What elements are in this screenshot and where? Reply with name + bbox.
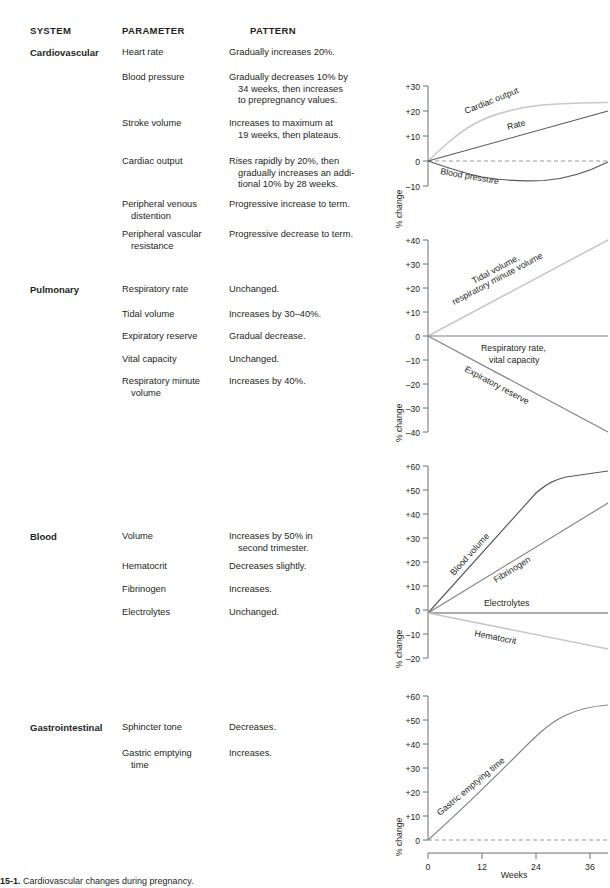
pattern-cell: Increases to maximum at19 weeks, then pl… (229, 118, 394, 141)
column-header-pattern: PATTERN (250, 25, 296, 36)
series-hematocrit (428, 613, 608, 649)
y-axis: +40 +30 +20 +10 0 –10 –20 –30 –40 (405, 236, 428, 438)
x-axis-label: Weeks (501, 870, 528, 878)
pattern-cell: Progressive increase to term. (229, 199, 394, 211)
pattern-cell: Unchanged. (229, 354, 394, 366)
parameter-cell: Blood pressure (122, 72, 232, 84)
svg-text:+10: +10 (405, 582, 420, 592)
column-header-parameter: PARAMETER (122, 25, 185, 36)
pattern-cell: Rises rapidly by 20%, thengradually incr… (229, 156, 394, 191)
label-rate: Rate (506, 117, 527, 131)
svg-text:–10: –10 (406, 182, 421, 192)
system-label-cardiovascular: Cardiovascular (30, 47, 99, 58)
parameter-cell: Respiratory minutevolume (122, 376, 232, 399)
y-axis: +60 +50 +40 +30 +20 +10 0 –10 –20 (405, 462, 428, 664)
series-gastric-emptying-time (428, 705, 608, 840)
chart-blood: % change +60 +50 +40 +30 +20 +10 0 –10 –… (396, 458, 610, 663)
pattern-cell: Unchanged. (229, 284, 394, 296)
svg-text:0: 0 (415, 332, 420, 342)
svg-text:+60: +60 (405, 692, 420, 702)
pattern-cell: Increases. (229, 584, 394, 596)
y-axis: +60 +50 +40 +30 +20 +10 0 (405, 692, 428, 846)
pattern-cell: Increases by 40%. (229, 376, 394, 388)
chart-gastrointestinal: % change +60 +50 +40 +30 +20 +10 0 Gastr… (396, 688, 610, 878)
figure-caption-text: Cardiovascular changes during pregnancy. (23, 876, 193, 886)
label-hematocrit: Hematocrit (474, 628, 518, 646)
svg-text:0: 0 (415, 157, 420, 167)
svg-text:+30: +30 (405, 260, 420, 270)
pattern-cell: Increases by 30–40%. (229, 309, 394, 321)
pattern-cell: Decreases slightly. (229, 561, 394, 573)
pattern-cell: Increases by 50% insecond trimester. (229, 531, 394, 554)
chart-pulmonary-plot: +40 +30 +20 +10 0 –10 –20 –30 –40 Tidal … (396, 232, 610, 437)
chart-pulmonary: % change +40 +30 +20 +10 0 –10 –20 –30 –… (396, 232, 610, 437)
parameter-cell: Hematocrit (122, 561, 232, 573)
parameter-cell: Vital capacity (122, 354, 232, 366)
svg-text:+40: +40 (405, 236, 420, 246)
svg-text:+20: +20 (405, 284, 420, 294)
parameter-cell: Peripheral venousdistention (122, 199, 232, 222)
svg-text:–30: –30 (406, 404, 421, 414)
svg-text:0: 0 (426, 862, 431, 872)
parameter-cell: Sphincter tone (122, 722, 232, 734)
svg-text:0: 0 (415, 836, 420, 846)
pattern-cell: Progressive decrease to term. (229, 229, 394, 241)
label-blood-volume: Blood volume (448, 531, 491, 577)
parameter-cell: Volume (122, 531, 232, 543)
parameter-table: SYSTEM PARAMETER PATTERN CardiovascularH… (0, 0, 395, 888)
pattern-cell: Unchanged. (229, 607, 394, 619)
svg-text:+10: +10 (405, 132, 420, 142)
label-cardiac-output: Cardiac output (463, 85, 520, 116)
svg-text:–40: –40 (406, 428, 421, 438)
svg-text:+40: +40 (405, 740, 420, 750)
svg-text:24: 24 (531, 862, 541, 872)
system-label-gastrointestinal: Gastrointestinal (30, 722, 102, 733)
label-fibrinogen: Fibrinogen (492, 554, 533, 585)
y-axis-title: % change (394, 630, 404, 668)
pattern-cell: Gradually increases 20%. (229, 47, 394, 59)
label-blood-pressure: Blood pressure (440, 166, 500, 186)
svg-text:+20: +20 (405, 558, 420, 568)
svg-text:+20: +20 (405, 788, 420, 798)
svg-text:0: 0 (415, 606, 420, 616)
svg-text:+10: +10 (405, 812, 420, 822)
parameter-cell: Gastric emptyingtime (122, 748, 232, 771)
svg-text:+50: +50 (405, 716, 420, 726)
parameter-cell: Cardiac output (122, 156, 232, 168)
svg-text:+50: +50 (405, 486, 420, 496)
pattern-cell: Decreases. (229, 722, 394, 734)
chart-cardiovascular: % change +30 +20 +10 0 –10 Cardiac outpu… (396, 78, 610, 198)
svg-text:+30: +30 (405, 82, 420, 92)
series-blood-volume (428, 471, 608, 613)
label-respiratory-rate-line1: Respiratory rate, (481, 343, 546, 353)
svg-text:12: 12 (477, 862, 487, 872)
chart-blood-plot: +60 +50 +40 +30 +20 +10 0 –10 –20 Blood … (396, 458, 610, 663)
figure-caption: 15-1. Cardiovascular changes during preg… (0, 876, 400, 886)
svg-text:+10: +10 (405, 308, 420, 318)
column-header-system: SYSTEM (30, 25, 71, 36)
system-label-pulmonary: Pulmonary (30, 284, 79, 295)
svg-text:+60: +60 (405, 462, 420, 472)
y-axis: +30 +20 +10 0 –10 (405, 82, 428, 192)
label-respiratory-rate-line2: vital capacity (489, 355, 540, 365)
chart-gastrointestinal-plot: +60 +50 +40 +30 +20 +10 0 Gastric emptyi… (396, 688, 610, 878)
svg-text:–10: –10 (406, 356, 421, 366)
y-axis-title: % change (394, 818, 404, 856)
pattern-cell: Gradual decrease. (229, 331, 394, 343)
series-tidal-volume (428, 240, 608, 336)
parameter-cell: Electrolytes (122, 607, 232, 619)
label-gastric-emptying-time: Gastric emptying time (435, 755, 507, 817)
parameter-cell: Tidal volume (122, 309, 232, 321)
series-cardiac-output (428, 103, 608, 162)
parameter-cell: Fibrinogen (122, 584, 232, 596)
parameter-cell: Stroke volume (122, 118, 232, 130)
y-axis-title: % change (394, 190, 404, 228)
parameter-cell: Respiratory rate (122, 284, 232, 296)
y-axis-title: % change (394, 404, 404, 442)
series-fibrinogen (428, 503, 608, 613)
svg-text:+20: +20 (405, 107, 420, 117)
svg-text:+30: +30 (405, 534, 420, 544)
svg-text:+30: +30 (405, 764, 420, 774)
label-electrolytes: Electrolytes (484, 598, 530, 608)
svg-text:–10: –10 (406, 630, 421, 640)
